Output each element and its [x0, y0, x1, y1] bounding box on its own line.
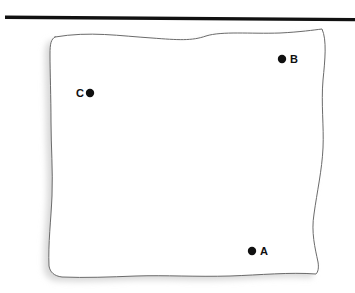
- diagram-canvas: A B C: [0, 0, 355, 293]
- horizontal-rule-line: [5, 17, 355, 19]
- point-marker-a: [248, 247, 256, 255]
- sheet-outline: [49, 29, 325, 277]
- point-label-a: A: [260, 246, 268, 257]
- point-label-c: C: [76, 88, 84, 99]
- point-marker-b: [278, 55, 286, 63]
- point-marker-c: [86, 89, 94, 97]
- diagram-scene: [0, 0, 355, 293]
- point-label-b: B: [290, 54, 298, 65]
